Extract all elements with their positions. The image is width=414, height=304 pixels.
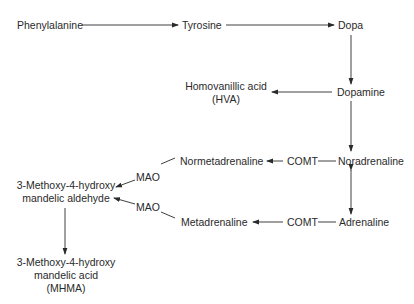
- node-dopamine: Dopamine: [337, 86, 385, 99]
- aldehyde-line2: mandelic aldehyde: [10, 192, 122, 205]
- node-mhma: 3-Methoxy-4-hydroxy mandelic acid (MHMA): [10, 256, 122, 295]
- node-normetadrenaline: Normetadrenaline: [180, 155, 263, 168]
- node-phenylalanine: Phenylalanine: [17, 19, 83, 32]
- enzyme-mao-lower: MAO: [136, 201, 160, 214]
- node-noradrenaline: Noradrenaline: [338, 155, 404, 168]
- node-hva: Homovanillic acid (HVA): [183, 80, 269, 106]
- node-dopa: Dopa: [338, 19, 363, 32]
- mhma-abbrev: (MHMA): [10, 282, 122, 295]
- enzyme-comt-upper: COMT: [287, 155, 318, 168]
- enzyme-comt-lower: COMT: [287, 216, 318, 229]
- mhma-line2: mandelic acid: [10, 269, 122, 282]
- aldehyde-line1: 3-Methoxy-4-hydroxy: [10, 179, 122, 192]
- line-metadrenaline-mao: [161, 212, 175, 218]
- hva-name: Homovanillic acid: [183, 80, 269, 93]
- hva-abbrev: (HVA): [183, 93, 269, 106]
- node-mandelic-aldehyde: 3-Methoxy-4-hydroxy mandelic aldehyde: [10, 179, 122, 205]
- enzyme-mao-upper: MAO: [136, 171, 160, 184]
- mhma-line1: 3-Methoxy-4-hydroxy: [10, 256, 122, 269]
- line-normetadrenaline-mao: [161, 158, 175, 164]
- node-tyrosine: Tyrosine: [182, 19, 222, 32]
- node-metadrenaline: Metadrenaline: [181, 216, 248, 229]
- node-adrenaline: Adrenaline: [339, 216, 389, 229]
